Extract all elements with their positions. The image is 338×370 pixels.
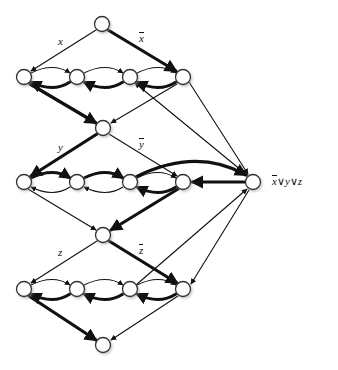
clause-operator-2: ∨ — [290, 175, 298, 187]
y-z-junction-node — [96, 228, 111, 243]
edge-z2-z3-arc-forward — [84, 280, 123, 286]
z-row-node-3 — [123, 282, 138, 297]
y-row-node-2 — [70, 175, 85, 190]
edge-clause-to-z4 — [191, 190, 249, 284]
clause-operator-1: ∨ — [277, 175, 285, 187]
edge-x1-to-junction1 — [30, 84, 96, 123]
z-row-node-4 — [176, 282, 191, 297]
edge-start-to-x1-true — [31, 30, 96, 71]
edge-z1-z2-arc-forward — [31, 280, 70, 286]
edge-z2-z1-arc-back — [31, 294, 70, 300]
edge-z4-to-end — [111, 296, 178, 340]
label-z-true: z — [58, 247, 62, 258]
x-row-node-4 — [176, 70, 191, 85]
edge-y4-y3-arc-back — [137, 187, 176, 193]
label-y-true: y — [58, 142, 63, 153]
label-z-negated: z — [139, 245, 143, 256]
clause-literal-1: x — [272, 176, 277, 187]
edge-y2-y1-arc-back — [31, 187, 70, 193]
edge-junction2-to-z1-true — [31, 241, 97, 283]
edge-z4-z3-arc-back — [137, 294, 176, 300]
overline-y: y — [139, 139, 144, 150]
y-row-node-4 — [176, 175, 191, 190]
z-row-node-1 — [17, 282, 32, 297]
label-x-negated: x — [139, 33, 144, 44]
x-row-node-3 — [123, 70, 138, 85]
end-node — [96, 338, 111, 353]
edge-y1-to-junction2 — [28, 189, 96, 230]
edge-x4-x3-arc-back — [137, 82, 176, 88]
edge-x3-x2-arc-back — [84, 82, 123, 88]
edge-x2-x3-arc-forward — [84, 68, 123, 74]
clause-node — [246, 175, 261, 190]
start-node — [95, 17, 110, 32]
x-y-junction-node — [96, 121, 111, 136]
z-row-node-2 — [70, 282, 85, 297]
edge-z3-z2-arc-back — [84, 294, 123, 300]
overline-z: z — [139, 245, 143, 256]
label-clause: x∨y∨z — [272, 176, 302, 187]
y-row-node-3 — [123, 175, 138, 190]
x-row-node-1 — [17, 70, 32, 85]
figure-canvas: x x y y z z x∨y∨z — [0, 0, 338, 370]
clause-literal-3: z — [298, 175, 302, 187]
edge-y2-y3-arc-forward — [84, 173, 123, 179]
edge-z1-to-end — [29, 296, 96, 340]
label-x-true: x — [58, 36, 63, 47]
overline-x: x — [139, 33, 144, 44]
y-row-node-1 — [17, 175, 32, 190]
edge-junction1-to-y1-true — [31, 134, 97, 176]
edge-x1-x2-arc-forward — [31, 68, 70, 74]
label-y-negated: y — [139, 139, 144, 150]
edge-y3-to-clause-curved — [136, 161, 246, 177]
edge-y4-to-junction2 — [111, 189, 178, 230]
x-row-node-2 — [70, 70, 85, 85]
edge-y3-y2-arc-back — [84, 187, 123, 193]
